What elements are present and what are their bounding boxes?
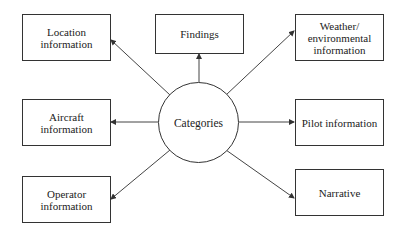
node-location-information: Location information xyxy=(22,14,111,61)
node-findings: Findings xyxy=(155,14,244,54)
arrow-to-narrative xyxy=(226,150,294,198)
node-operator-information: Operator information xyxy=(22,176,111,223)
center-node-categories: Categories xyxy=(158,82,239,163)
arrow-to-operator xyxy=(111,150,170,199)
node-weather-environmental-information: Weather/ environmental information xyxy=(295,14,384,61)
node-pilot-information: Pilot information xyxy=(295,99,384,146)
node-narrative: Narrative xyxy=(295,169,384,216)
node-aircraft-information: Aircraft information xyxy=(22,99,111,146)
